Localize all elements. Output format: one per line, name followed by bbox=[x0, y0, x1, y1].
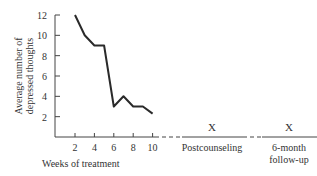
y-tick-label: 2 bbox=[42, 112, 47, 123]
x-tick-label: 2 bbox=[73, 142, 78, 153]
series-line bbox=[75, 15, 153, 114]
y-axis-label-line2: depressed thoughts bbox=[24, 38, 35, 114]
y-tick-label: 10 bbox=[37, 30, 47, 41]
y-tick-label: 8 bbox=[42, 51, 47, 62]
postcounseling-marker: X bbox=[208, 121, 216, 133]
x-tick-label: 4 bbox=[92, 142, 97, 153]
y-tick-label: 6 bbox=[42, 71, 47, 82]
x-axis-label: Weeks of treatment bbox=[42, 158, 120, 169]
postcounseling-label: Postcounseling bbox=[182, 142, 243, 153]
y-ticks: 24681012 bbox=[37, 10, 60, 123]
followup-label-line2: follow-up bbox=[269, 154, 308, 165]
x-tick-label: 8 bbox=[131, 142, 136, 153]
y-axis-label-line1: Average number of bbox=[13, 37, 24, 115]
y-tick-label: 12 bbox=[37, 10, 47, 21]
line-chart: 24681012 246810 X X Postcounseling 6-mon… bbox=[0, 0, 317, 176]
followup-marker: X bbox=[285, 121, 293, 133]
y-tick-label: 4 bbox=[42, 91, 47, 102]
x-tick-label: 10 bbox=[148, 142, 158, 153]
followup-label-line1: 6-month bbox=[272, 142, 306, 153]
x-ticks: 246810 bbox=[73, 133, 158, 153]
x-tick-label: 6 bbox=[111, 142, 116, 153]
